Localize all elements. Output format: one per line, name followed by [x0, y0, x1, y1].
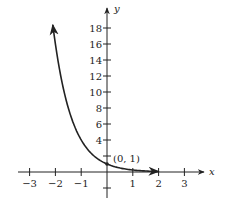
y-tick-label: 12: [89, 71, 102, 82]
y-tick-label: 16: [89, 39, 102, 50]
point-0-1: [105, 162, 109, 166]
graph: x y −3−2−1123 4681012141618 (0, 1): [0, 0, 225, 208]
y-tick-label: 4: [96, 135, 102, 146]
x-tick-label: −3: [22, 178, 37, 189]
y-tick-label: 6: [96, 119, 102, 130]
point-label: (0, 1): [113, 153, 140, 164]
y-axis-label: y: [113, 3, 120, 14]
function-curve: [53, 25, 159, 172]
y-tick-label: 10: [89, 87, 102, 98]
y-tick-label: 14: [89, 55, 102, 66]
x-ticks: −3−2−1123: [22, 168, 187, 189]
x-tick-label: 3: [181, 178, 187, 189]
y-ticks: 4681012141618: [89, 23, 111, 157]
y-tick-label: 18: [89, 23, 102, 34]
x-tick-label: 1: [130, 178, 136, 189]
x-tick-label: −1: [74, 178, 89, 189]
x-tick-label: −2: [48, 178, 63, 189]
x-axis-label: x: [209, 166, 215, 177]
y-tick-label: 8: [96, 103, 102, 114]
x-tick-label: 2: [155, 178, 161, 189]
